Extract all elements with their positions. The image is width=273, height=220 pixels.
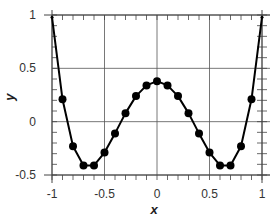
y-tick-labels: -0.500.51 — [15, 8, 36, 182]
x-tick-label: 0 — [154, 187, 161, 201]
data-point — [101, 149, 109, 157]
x-tick-label: 0.5 — [201, 187, 218, 201]
y-tick-label: 0.5 — [19, 61, 36, 75]
data-point — [51, 16, 54, 19]
y-tick-label: 0 — [29, 115, 36, 129]
x-tick-label: -1 — [47, 187, 58, 201]
data-point — [261, 16, 264, 19]
y-tick-label: -0.5 — [15, 168, 36, 182]
data-point — [195, 129, 203, 137]
x-tick-label: -0.5 — [94, 187, 115, 201]
data-point — [90, 161, 98, 169]
data-point — [164, 81, 172, 89]
data-point — [185, 109, 193, 117]
data-point — [80, 161, 88, 169]
x-tick-label: 1 — [259, 187, 266, 201]
y-tick-label: 1 — [29, 8, 36, 22]
data-point — [59, 95, 67, 103]
data-point — [248, 95, 256, 103]
data-point — [206, 149, 214, 157]
data-point — [216, 161, 224, 169]
data-point — [237, 142, 245, 150]
line-chart: -1-0.500.51 -0.500.51 x y — [0, 0, 273, 220]
axis-ticks — [52, 15, 267, 180]
x-tick-labels: -1-0.500.51 — [47, 187, 266, 201]
data-point — [227, 161, 235, 169]
data-point — [143, 81, 151, 89]
x-axis-title: x — [149, 202, 158, 217]
data-point — [153, 77, 161, 85]
data-point — [69, 142, 77, 150]
data-point — [174, 92, 182, 100]
data-point — [122, 109, 130, 117]
y-axis-title: y — [2, 93, 17, 102]
data-point — [132, 92, 140, 100]
data-point — [111, 129, 119, 137]
